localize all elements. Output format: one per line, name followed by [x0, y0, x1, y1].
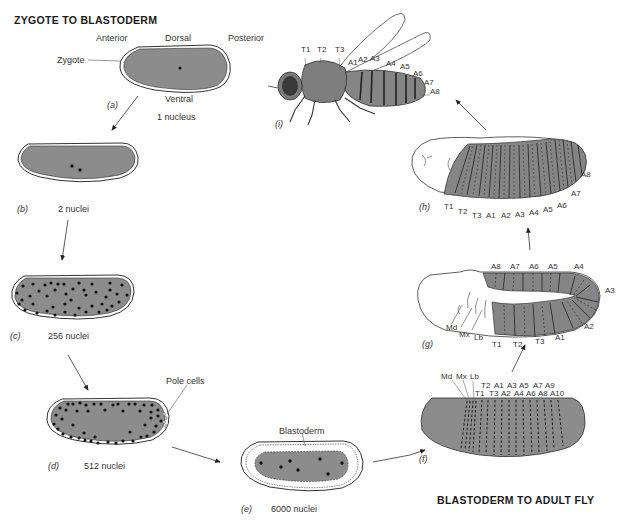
- count-e: 6000 nuclei: [271, 505, 317, 514]
- arrow-e-to-f-tail: [373, 455, 410, 462]
- f-label-t1: T1: [475, 390, 484, 398]
- arrow-c-to-d: [68, 355, 88, 390]
- i-label-a5: A5: [400, 63, 410, 71]
- count-b: 2 nuclei: [58, 205, 89, 214]
- f-label-mx: Mx: [456, 373, 467, 381]
- g-label-a3: A3: [605, 287, 615, 295]
- f-label-a2: A2: [501, 390, 511, 398]
- f-label-md: Md: [441, 373, 452, 381]
- panel-h: (h): [419, 203, 430, 212]
- h-label-a6: A6: [557, 202, 567, 210]
- embryo-e: [241, 433, 363, 491]
- i-label-a6: A6: [413, 70, 423, 78]
- g-label-t2: T2: [513, 341, 522, 349]
- panel-b: (b): [17, 205, 28, 214]
- panel-d: (d): [48, 462, 59, 471]
- arrow-d-to-e: [172, 447, 220, 462]
- g-label-a2: A2: [584, 323, 594, 331]
- g-label-a1: A1: [555, 334, 565, 342]
- label-pole-cells: Pole cells: [166, 377, 205, 386]
- h-label-a8: A8: [581, 171, 591, 179]
- f-label-a10: A10: [550, 390, 564, 398]
- embryo-b: [18, 143, 138, 182]
- h-label-t3: T3: [472, 212, 481, 220]
- embryo-h: [412, 137, 586, 199]
- label-anterior: Anterior: [96, 34, 128, 43]
- arrow-b-to-c: [62, 220, 68, 260]
- f-label-a6: A6: [526, 390, 536, 398]
- i-label-a4: A4: [386, 60, 396, 68]
- i-label-a7: A7: [424, 79, 434, 87]
- h-label-a4: A4: [529, 209, 539, 217]
- g-label-t1: T1: [492, 341, 501, 349]
- embryo-g: [418, 270, 601, 337]
- g-label-a5: A5: [548, 263, 558, 271]
- g-label-lb: Lb: [474, 334, 483, 342]
- i-label-t3: T3: [335, 46, 344, 54]
- h-label-a5: A5: [543, 206, 553, 214]
- g-label-a7: A7: [510, 263, 520, 271]
- f-label-a8: A8: [538, 390, 548, 398]
- g-label-mx: Mx: [459, 331, 470, 339]
- i-label-a3: A3: [370, 55, 380, 63]
- section-title-blastoderm-to-adult: BLASTODERM TO ADULT FLY: [437, 494, 594, 506]
- f-label-a4: A4: [514, 390, 524, 398]
- g-label-a8: A8: [491, 263, 501, 271]
- h-label-a2: A2: [501, 212, 511, 220]
- panel-g: (g): [422, 340, 433, 349]
- count-c: 256 nuclei: [48, 332, 89, 341]
- arrow-g-to-h: [528, 228, 530, 250]
- h-label-a3: A3: [515, 211, 525, 219]
- arrow-h-to-i: [456, 100, 486, 130]
- embryo-c: [12, 275, 134, 319]
- count-a: 1 nucleus: [157, 113, 196, 122]
- f-label-lb: Lb: [470, 373, 479, 381]
- g-label-t3: T3: [535, 338, 544, 346]
- i-label-t1: T1: [301, 46, 310, 54]
- embryo-d: [47, 385, 187, 445]
- g-label-md: Md: [446, 324, 457, 332]
- count-d: 512 nuclei: [84, 462, 125, 471]
- label-dorsal: Dorsal: [165, 34, 191, 43]
- panel-c: (c): [10, 332, 21, 341]
- i-label-t2: T2: [317, 46, 326, 54]
- arrow-f-to-g: [512, 345, 525, 372]
- f-label-t3: T3: [489, 390, 498, 398]
- label-blastoderm: Blastoderm: [279, 427, 325, 436]
- i-label-a2: A2: [358, 56, 368, 64]
- h-label-t2: T2: [458, 208, 467, 216]
- panel-e: (e): [241, 505, 252, 514]
- section-title-zygote-to-blastoderm: ZYGOTE TO BLASTODERM: [14, 14, 157, 26]
- i-label-a1: A1: [348, 59, 358, 67]
- panel-i: (i): [275, 120, 283, 129]
- h-label-a7: A7: [571, 190, 581, 198]
- g-label-a4: A4: [574, 263, 584, 271]
- embryo-a: [88, 45, 230, 92]
- g-label-a6: A6: [529, 263, 539, 271]
- label-posterior: Posterior: [228, 34, 264, 43]
- panel-a: (a): [107, 101, 118, 110]
- label-ventral: Ventral: [165, 95, 193, 104]
- h-label-t1: T1: [444, 203, 453, 211]
- label-zygote: Zygote: [57, 56, 85, 65]
- i-label-a8: A8: [430, 88, 440, 96]
- panel-f: (f): [419, 455, 428, 464]
- diagram-graphics: [0, 0, 625, 521]
- h-label-a1: A1: [486, 212, 496, 220]
